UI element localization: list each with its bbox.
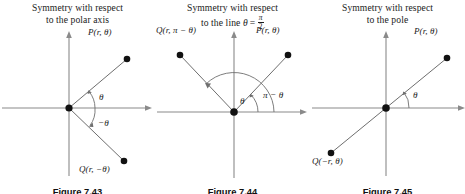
figure-caption-1: Figure 7.43 [0, 186, 155, 194]
panel-title-line-2: to the pole [310, 14, 465, 26]
point-p [444, 55, 451, 62]
panel-symmetry-polar-axis: Symmetry with respect to the polar axis [0, 0, 155, 194]
panel-title-pole: Symmetry with respect to the pole [310, 2, 465, 26]
angle-arcs-group [88, 90, 95, 127]
arc-theta [404, 93, 409, 109]
x-axis-arrow [145, 105, 152, 111]
point-q [177, 52, 184, 59]
axes-group [312, 31, 465, 176]
plot-area-line-theta: P(r, θ) Q(r, π − θ) θ π − θ [155, 28, 310, 180]
x-axis-arrow [458, 105, 465, 111]
point-p [124, 56, 131, 63]
label-angle-theta: θ [99, 92, 104, 102]
figure-caption-2: Figure 7.44 [155, 186, 310, 194]
rays-group [331, 58, 447, 153]
plot-area-polar-axis: P(r, θ) Q(r, −θ) θ −θ [0, 28, 155, 180]
arc-theta [251, 95, 258, 112]
panel-title-line-2-prefix: to the line [201, 17, 243, 28]
y-axis-arrow [66, 31, 72, 38]
line-through-pole [331, 58, 447, 153]
panel-title-theta-symbol: θ [243, 17, 248, 28]
point-origin [230, 108, 238, 116]
arc-pi-minus-theta-arrowhead [205, 83, 211, 88]
panel-symmetry-line-theta: Symmetry with respect to the line θ=π2 [155, 0, 310, 194]
panel-title-line-1: Symmetry with respect [155, 2, 310, 14]
polar-symmetry-figure: Symmetry with respect to the polar axis [0, 0, 465, 194]
axes-group [2, 31, 152, 176]
ray-to-q [69, 108, 124, 161]
label-angle-theta: θ [413, 90, 418, 100]
point-p [285, 52, 292, 59]
panel-title-polar-axis: Symmetry with respect to the polar axis [0, 2, 155, 26]
points-group [65, 56, 130, 165]
rays-group [69, 59, 127, 161]
point-q [121, 158, 128, 165]
label-angle-negative-theta: −θ [98, 118, 109, 128]
plot-area-pole: P(r, θ) Q(−r, θ) θ [310, 28, 465, 180]
label-point-p: P(r, θ) [414, 26, 438, 36]
label-point-q: Q(r, −θ) [79, 164, 110, 174]
panel-title-equals: = [250, 17, 256, 28]
label-point-p: P(r, θ) [256, 25, 280, 35]
x-axis-arrow [300, 109, 307, 115]
point-origin [65, 104, 72, 111]
panel-title-line-2: to the polar axis [0, 14, 155, 26]
label-point-q: Q(−r, θ) [312, 156, 343, 166]
arc-theta [89, 92, 95, 109]
label-angle-theta: θ [240, 96, 245, 106]
panel-title-line-1: Symmetry with respect [0, 2, 155, 14]
label-angle-pi-minus-theta: π − θ [263, 90, 283, 100]
panel-symmetry-pole: Symmetry with respect to the pole [310, 0, 465, 194]
panel-title-line-1: Symmetry with respect [310, 2, 465, 14]
y-axis-arrow [231, 31, 237, 38]
ray-to-p [69, 59, 127, 108]
label-point-q: Q(r, π − θ) [156, 25, 196, 35]
figure-caption-3: Figure 7.45 [310, 186, 465, 194]
angle-arcs-group [403, 91, 409, 108]
y-axis-arrow [383, 31, 389, 38]
point-origin [382, 104, 390, 112]
label-point-p: P(r, θ) [88, 27, 112, 37]
